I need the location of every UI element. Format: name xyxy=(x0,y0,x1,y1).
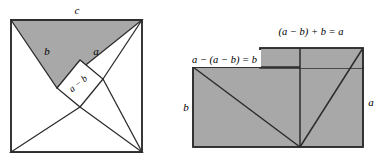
left-figure-group: c b a a − b xyxy=(11,4,142,152)
right-figure-group: (a − b) + b = a a − (a − b) = b b a xyxy=(183,26,374,147)
right-main-rect xyxy=(193,67,363,147)
label-a-left: a xyxy=(93,45,99,57)
geometry-figure: c b a a − b (a xyxy=(0,0,378,165)
label-c: c xyxy=(75,4,80,16)
right-left-equation: a − (a − b) = b xyxy=(192,54,257,66)
diagram-canvas: c b a a − b (a xyxy=(0,0,378,165)
right-label-a: a xyxy=(368,96,374,108)
right-label-b: b xyxy=(183,101,189,113)
label-b-left: b xyxy=(44,45,50,57)
right-notch-rect xyxy=(260,48,363,68)
right-top-equation: (a − b) + b = a xyxy=(279,26,344,38)
